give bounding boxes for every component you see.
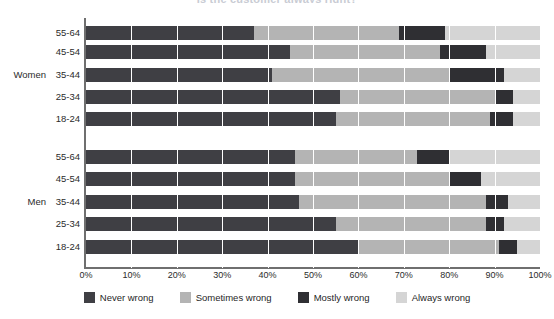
bar-segment[interactable] [486, 217, 504, 231]
y-axis-tick-label: 35-44 [38, 195, 80, 209]
legend-item[interactable]: Always wrong [396, 292, 471, 303]
x-axis-tick-label: 0% [79, 270, 92, 280]
category-label-axis: 55-6445-5435-4425-3418-2455-6445-5435-44… [32, 18, 80, 268]
x-axis-tick-label: 80% [440, 270, 458, 280]
bar-segment[interactable] [86, 150, 295, 164]
y-axis-tick-label: 55-64 [38, 150, 80, 164]
bar-row[interactable] [86, 90, 540, 104]
legend-label: Mostly wrong [314, 292, 370, 303]
bar-segment[interactable] [254, 26, 399, 40]
bar-segment[interactable] [513, 112, 540, 126]
x-axis-tick-label: 20% [168, 270, 186, 280]
legend-label: Sometimes wrong [196, 292, 272, 303]
bar-segment[interactable] [399, 26, 444, 40]
bar-row[interactable] [86, 217, 540, 231]
legend-label: Always wrong [412, 292, 471, 303]
x-axis-tick-label: 90% [486, 270, 504, 280]
bar-segment[interactable] [86, 195, 299, 209]
bar-segment[interactable] [445, 26, 540, 40]
bar-segment[interactable] [504, 217, 540, 231]
bar-segment[interactable] [449, 150, 540, 164]
y-axis-tick-label: 25-34 [38, 217, 80, 231]
legend-swatch-icon [298, 292, 309, 303]
bar-segment[interactable] [499, 240, 517, 254]
bar-segment[interactable] [86, 26, 254, 40]
bar-segment[interactable] [504, 68, 540, 82]
chart-container: Is the customer always right? WomenMen 5… [0, 0, 554, 319]
bar-segment[interactable] [86, 68, 272, 82]
bar-row[interactable] [86, 26, 540, 40]
y-axis-tick-label: 45-54 [38, 45, 80, 59]
bar-segment[interactable] [358, 240, 499, 254]
y-axis-tick-label: 45-54 [38, 172, 80, 186]
x-axis-tick-label: 10% [122, 270, 140, 280]
bar-segment[interactable] [449, 68, 503, 82]
bar-segment[interactable] [417, 150, 449, 164]
bar-segment[interactable] [486, 45, 540, 59]
bar-segment[interactable] [440, 45, 485, 59]
y-axis-tick-label: 25-34 [38, 90, 80, 104]
bar-row[interactable] [86, 240, 540, 254]
bar-segment[interactable] [481, 172, 540, 186]
bar-segment[interactable] [86, 240, 358, 254]
bar-segment[interactable] [508, 195, 540, 209]
y-axis-tick-label: 55-64 [38, 26, 80, 40]
x-axis-tick-label: 50% [304, 270, 322, 280]
bar-segment[interactable] [299, 195, 485, 209]
bar-row[interactable] [86, 150, 540, 164]
bar-segment[interactable] [336, 112, 490, 126]
bar-row[interactable] [86, 195, 540, 209]
bar-row[interactable] [86, 45, 540, 59]
bar-segment[interactable] [449, 172, 481, 186]
bar-segment[interactable] [290, 45, 440, 59]
legend-swatch-icon [396, 292, 407, 303]
bar-segment[interactable] [513, 90, 540, 104]
y-axis-tick-label: 18-24 [38, 240, 80, 254]
bar-segment[interactable] [295, 172, 449, 186]
bar-segment[interactable] [495, 90, 513, 104]
plot-area [84, 18, 540, 268]
x-axis-tick-label: 70% [395, 270, 413, 280]
x-axis-tick-labels: 0%10%20%30%40%50%60%70%80%90%100% [84, 270, 540, 284]
legend-swatch-icon [84, 292, 95, 303]
x-axis-line [84, 267, 540, 269]
bar-segment[interactable] [86, 45, 290, 59]
y-axis-tick-label: 35-44 [38, 68, 80, 82]
bar-segment[interactable] [486, 195, 509, 209]
x-axis-tick-label: 100% [528, 270, 551, 280]
bar-segment[interactable] [86, 217, 336, 231]
legend-label: Never wrong [100, 292, 154, 303]
legend-item[interactable]: Never wrong [84, 292, 154, 303]
bar-segment[interactable] [490, 112, 513, 126]
bar-row[interactable] [86, 68, 540, 82]
bar-segment[interactable] [517, 240, 540, 254]
y-axis-tick-label: 18-24 [38, 112, 80, 126]
bar-segment[interactable] [295, 150, 418, 164]
chart-legend: Never wrongSometimes wrongMostly wrongAl… [0, 292, 554, 303]
gridline [540, 18, 541, 268]
bar-segment[interactable] [272, 68, 449, 82]
bar-segment[interactable] [86, 112, 336, 126]
bar-segment[interactable] [86, 90, 340, 104]
x-axis-tick-label: 30% [213, 270, 231, 280]
bar-segment[interactable] [340, 90, 494, 104]
legend-swatch-icon [180, 292, 191, 303]
legend-item[interactable]: Sometimes wrong [180, 292, 272, 303]
bar-segment[interactable] [336, 217, 486, 231]
legend-item[interactable]: Mostly wrong [298, 292, 370, 303]
x-axis-tick-label: 60% [349, 270, 367, 280]
bar-row[interactable] [86, 112, 540, 126]
bar-row[interactable] [86, 172, 540, 186]
bar-segment[interactable] [86, 172, 295, 186]
x-axis-tick-label: 40% [259, 270, 277, 280]
chart-title: Is the customer always right? [0, 0, 554, 3]
